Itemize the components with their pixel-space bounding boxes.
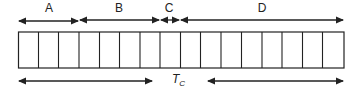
- segment-d-label: D: [258, 1, 267, 15]
- segment-a-label: A: [45, 1, 53, 15]
- cell-strip: [19, 32, 345, 68]
- segment-b-label: B: [115, 1, 123, 15]
- cycle-time-label: TC: [172, 72, 185, 88]
- segment-c-label: C: [165, 1, 174, 15]
- timing-diagram: A B C D TC: [0, 0, 362, 90]
